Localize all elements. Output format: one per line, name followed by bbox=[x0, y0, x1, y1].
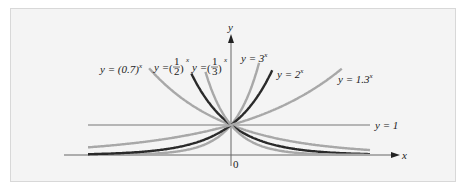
y-equals-1-label: y = 1 bbox=[374, 119, 398, 131]
svg-text:x: x bbox=[185, 56, 190, 64]
y-axis-arrow-icon bbox=[228, 34, 234, 43]
x-axis-label: x bbox=[401, 149, 407, 161]
label-0.7x: y = (0.7)x bbox=[99, 62, 143, 76]
label-1.3x: y = 1.3x bbox=[337, 72, 374, 85]
curve-y-1-2-x bbox=[191, 74, 370, 155]
svg-text:): ) bbox=[180, 62, 184, 75]
svg-text:): ) bbox=[218, 62, 222, 75]
exponential-functions-chart: y = (0.7)x y = 1 2 ( ) x y = 1 3 ( ) x y… bbox=[0, 0, 466, 194]
svg-text:(: ( bbox=[207, 62, 211, 75]
svg-text:y =: y = bbox=[191, 61, 207, 73]
curves-group bbox=[88, 63, 370, 155]
svg-text:x: x bbox=[223, 56, 228, 64]
origin-label: 0 bbox=[233, 158, 239, 170]
svg-text:(: ( bbox=[169, 62, 173, 75]
svg-text:y =: y = bbox=[153, 61, 169, 73]
curve-y-2-x bbox=[88, 70, 272, 154]
y-axis-label: y bbox=[227, 21, 233, 33]
x-axis-arrow-icon bbox=[391, 152, 400, 158]
label-2x: y = 2x bbox=[276, 67, 304, 80]
label-3x: y = 3x bbox=[240, 51, 268, 64]
label-half-x: y = 1 2 ( ) x bbox=[153, 55, 190, 77]
curve-y-0.7-x bbox=[149, 68, 370, 150]
svg-text:2: 2 bbox=[174, 65, 180, 77]
label-third-x: y = 1 3 ( ) x bbox=[191, 55, 228, 77]
